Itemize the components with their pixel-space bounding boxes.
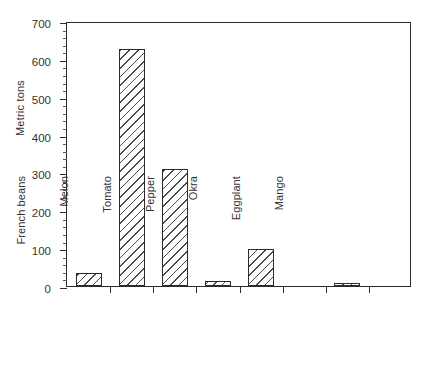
y-tick-minor	[63, 31, 67, 32]
y-tick-label: 500	[32, 94, 51, 106]
x-tick-label: Pepper	[144, 176, 156, 296]
bar	[76, 273, 102, 286]
y-tick-minor	[63, 152, 67, 153]
x-tick-label: Okra	[187, 176, 199, 296]
y-tick-label: 400	[32, 132, 51, 144]
y-tick-minor	[63, 129, 67, 130]
x-tick-label: Tomato	[101, 176, 113, 296]
bar	[119, 49, 145, 286]
x-tick-label: Eggplant	[230, 176, 242, 296]
bar-chart: Metric tons 0100200300400500600700 Strin…	[0, 0, 432, 384]
y-tick-label: 200	[32, 207, 51, 219]
y-tick-major: 700	[60, 23, 67, 24]
y-tick-minor	[63, 84, 67, 85]
y-tick-minor	[63, 159, 67, 160]
y-tick-major: 500	[60, 99, 67, 100]
y-tick-minor	[63, 53, 67, 54]
y-tick-minor	[63, 38, 67, 39]
y-tick-label: 0	[45, 283, 51, 295]
x-tick	[326, 286, 327, 293]
y-tick-minor	[63, 76, 67, 77]
x-tick-label: French beans	[15, 176, 27, 296]
y-tick-minor	[63, 121, 67, 122]
y-tick-minor	[63, 106, 67, 107]
bar	[205, 281, 231, 286]
y-tick-major: 400	[60, 137, 67, 138]
y-tick-minor	[63, 68, 67, 69]
y-tick-minor	[63, 46, 67, 47]
y-tick-label: 700	[32, 18, 51, 30]
y-tick-minor	[63, 167, 67, 168]
y-tick-label: 300	[32, 169, 51, 181]
bar	[162, 169, 188, 286]
y-tick-minor	[63, 144, 67, 145]
bar	[248, 249, 274, 286]
y-tick-label: 100	[32, 245, 51, 257]
x-tick-label: Melon	[58, 176, 70, 296]
y-tick-major: 600	[60, 61, 67, 62]
y-axis-title: Metric tons	[14, 58, 30, 158]
y-tick-minor	[63, 91, 67, 92]
y-tick-label: 600	[32, 56, 51, 68]
bar	[334, 283, 360, 286]
x-tick	[369, 286, 370, 293]
y-tick-minor	[63, 114, 67, 115]
x-tick-label: Mango	[273, 176, 285, 296]
